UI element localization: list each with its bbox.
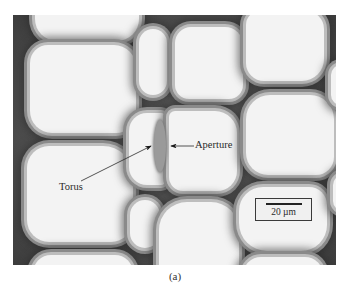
figure-caption: (a) xyxy=(0,270,350,282)
torus-label: Torus xyxy=(59,181,83,192)
torus-arrow-icon xyxy=(81,146,151,181)
aperture-label: Aperture xyxy=(195,139,232,150)
annotation-arrows xyxy=(0,0,350,296)
